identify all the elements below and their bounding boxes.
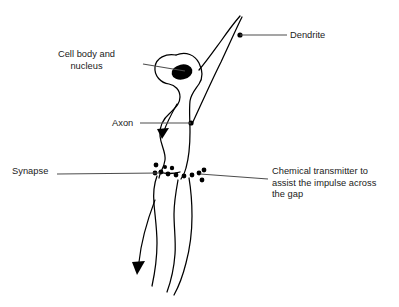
vesicle-dot [197, 171, 202, 176]
dendrite-branch-right [192, 17, 242, 124]
neuron-illustration [0, 0, 399, 307]
vesicle-dot [154, 163, 159, 168]
vesicle-dot [190, 173, 195, 178]
vesicle-dot [163, 165, 167, 169]
label-axon: Axon [112, 118, 133, 130]
vesicle-dot [174, 173, 179, 178]
vesicle-dot [170, 166, 174, 170]
vesicle-dot [182, 174, 187, 179]
neuron-diagram: Cell body and nucleus Axon Synapse Dendr… [0, 0, 399, 307]
label-cell-body-and-nucleus: Cell body and nucleus [33, 49, 140, 72]
lower-cell-outline-left [152, 176, 157, 286]
label-synapse: Synapse [12, 166, 48, 178]
dendrite-branch-left [199, 16, 240, 70]
lower-cell-outline-middle [167, 180, 178, 292]
label-dendrite: Dendrite [290, 30, 325, 42]
leader-line-chemical [200, 174, 268, 179]
lower-cell-outline-right [174, 178, 192, 295]
vesicle-dot [159, 170, 164, 175]
vesicle-dot [200, 178, 205, 183]
impulse-arrow-lower-head [132, 261, 145, 275]
nucleus-blob [170, 62, 194, 81]
leader-line-synapse [57, 173, 160, 174]
vesicle-dot [202, 168, 207, 173]
impulse-arrow-upper-head [157, 128, 169, 139]
impulse-arrow-lower-shaft [139, 200, 155, 262]
label-chemical-transmitter: Chemical transmitter to assist the impul… [272, 166, 398, 201]
vesicle-dot [166, 172, 171, 177]
